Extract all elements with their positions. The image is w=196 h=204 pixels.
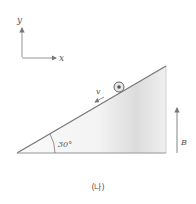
- incline-wedge: [17, 66, 166, 153]
- y-axis-label: y: [16, 15, 23, 25]
- x-axis-label: x: [59, 53, 64, 63]
- magnetic-field: B: [177, 108, 187, 153]
- field-label: B: [180, 138, 187, 147]
- incline-diagram: y x 30° v B: [0, 0, 196, 204]
- velocity-label: v: [96, 87, 101, 96]
- ball-center-dot: [117, 85, 121, 89]
- figure-caption: (나): [0, 181, 196, 192]
- angle-label: 30°: [58, 140, 72, 149]
- coordinate-axes: y x: [16, 15, 64, 63]
- velocity-arrow: [95, 97, 104, 102]
